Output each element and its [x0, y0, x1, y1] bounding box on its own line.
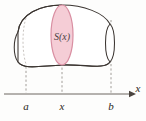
x-axis-label: x — [135, 82, 141, 94]
solid-right-cap — [106, 24, 115, 62]
cross-section-figure: S(x) x a x b — [0, 0, 146, 121]
cross-section-label: S(x) — [54, 31, 71, 43]
tick-label-x: x — [59, 100, 65, 112]
x-axis — [4, 91, 136, 97]
tick-label-b: b — [108, 100, 114, 112]
tick-label-a: a — [23, 100, 29, 112]
figure-container: S(x) x a x b — [0, 0, 146, 121]
solid-left-cap — [14, 32, 18, 62]
